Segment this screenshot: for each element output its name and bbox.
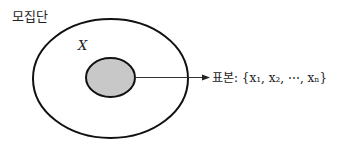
- sample-ellipse: [86, 58, 135, 97]
- sample-label: 표본: {x₁, x₂, ⋯, xₙ}: [212, 68, 327, 85]
- variable-label: X: [78, 38, 87, 53]
- population-label: 모집단: [12, 6, 48, 25]
- arrow-head-icon: [202, 75, 210, 81]
